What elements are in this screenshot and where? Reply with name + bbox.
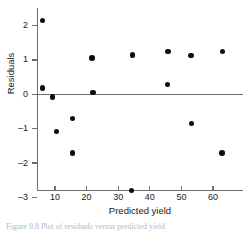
x-axis-tick-label: 30 (106, 193, 130, 202)
x-axis-tick-label: 10 (43, 193, 67, 202)
data-point (129, 188, 135, 194)
y-axis-tick-label: 1 (23, 55, 28, 64)
data-point (90, 90, 96, 96)
data-point (40, 85, 46, 91)
y-axis-tick-label: –1 (18, 124, 28, 133)
y-axis-tick-label: 0 (23, 90, 28, 99)
data-point (70, 116, 76, 122)
x-axis-tick-label: 20 (75, 193, 99, 202)
data-point (50, 94, 56, 100)
data-point (188, 53, 194, 59)
data-point (219, 150, 225, 156)
data-point (89, 55, 95, 61)
data-point (40, 18, 46, 24)
y-axis-tick-label: –3 (18, 193, 28, 202)
data-point (130, 52, 136, 58)
figure-caption: Figure 9.8 Plot of residuals versus pred… (6, 222, 243, 231)
data-point (70, 150, 76, 156)
data-point (54, 129, 60, 135)
y-axis-tick-label: 2 (23, 21, 28, 30)
x-axis-tick-label: 60 (201, 193, 225, 202)
x-axis-tick-label: 50 (169, 193, 193, 202)
data-point (165, 49, 171, 55)
x-axis-tick-label: 40 (138, 193, 162, 202)
y-axis-tick (32, 197, 37, 198)
plot-area (37, 8, 243, 190)
data-point (165, 82, 171, 88)
y-axis-tick-label: –2 (18, 159, 28, 168)
y-axis-title: Residuals (5, 29, 16, 119)
x-axis-title: Predicted yield (37, 205, 243, 216)
data-point (189, 121, 195, 127)
residual-plot-figure: 210–1–2–3 102030405060 Residuals Predict… (0, 0, 243, 232)
data-point (220, 49, 226, 55)
